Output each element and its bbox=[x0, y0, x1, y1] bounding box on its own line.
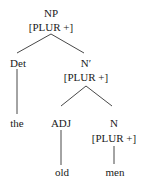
node-adj: ADJ bbox=[51, 117, 71, 129]
edge-np-nbar bbox=[51, 34, 84, 53]
node-n: N bbox=[110, 117, 118, 129]
edge-nbar-n bbox=[86, 86, 112, 106]
node-nbar-feature: [PLUR +] bbox=[64, 71, 108, 83]
node-nbar: N′ bbox=[81, 57, 91, 69]
edge-np-det bbox=[17, 34, 51, 53]
node-np: NP bbox=[44, 7, 58, 19]
word-men: men bbox=[106, 166, 125, 178]
node-det: Det bbox=[10, 57, 26, 69]
edge-nbar-adj bbox=[61, 86, 86, 106]
word-old: old bbox=[55, 166, 69, 178]
node-n-feature: [PLUR +] bbox=[92, 132, 136, 144]
word-the: the bbox=[10, 117, 23, 129]
node-np-feature: [PLUR +] bbox=[29, 21, 73, 33]
